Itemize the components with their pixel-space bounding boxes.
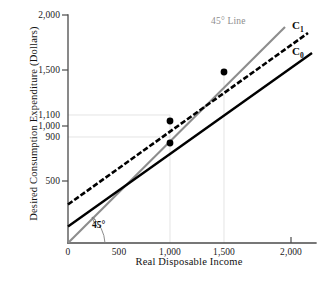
series-label-c1: C1 bbox=[292, 19, 304, 34]
legend-label-45-line: 45° Line bbox=[211, 16, 246, 26]
x-axis-title: Real Disposable Income bbox=[68, 256, 310, 267]
data-point-1000-900 bbox=[167, 140, 174, 147]
data-point-1000-1100 bbox=[167, 118, 174, 125]
axis-lines bbox=[68, 15, 316, 243]
y-tick-label-1100: 1,100 bbox=[12, 110, 60, 120]
series-label-c1-sub: 1 bbox=[300, 25, 304, 34]
series-label-c1-main: C bbox=[292, 19, 300, 31]
annotation-45-degree: 45° bbox=[92, 220, 105, 230]
data-point-1500-1500 bbox=[221, 69, 228, 76]
series-label-c0: C0 bbox=[292, 45, 304, 60]
series-label-c0-sub: 0 bbox=[300, 51, 304, 60]
chart-figure: Desired Consumption Expenditure (Dollars… bbox=[0, 0, 330, 290]
line-45-degree bbox=[68, 27, 285, 243]
x-tick-label-500: 500 bbox=[103, 247, 135, 257]
series-label-c0-main: C bbox=[292, 45, 300, 57]
x-tick-label-0: 0 bbox=[52, 247, 84, 257]
y-tick-label-1500: 1,500 bbox=[12, 65, 60, 75]
x-tick-label-1500: 1,500 bbox=[208, 247, 240, 257]
y-tick-label-900: 900 bbox=[12, 132, 60, 142]
y-tick-label-1000: 1,000 bbox=[12, 121, 60, 131]
y-tick-label-500: 500 bbox=[12, 176, 60, 186]
curve-c0 bbox=[68, 53, 312, 227]
guide-lines bbox=[68, 72, 224, 243]
curve-c1 bbox=[68, 33, 308, 205]
y-axis-ticks bbox=[62, 15, 68, 181]
y-tick-label-2000: 2,000 bbox=[12, 10, 60, 20]
x-tick-label-1000: 1,000 bbox=[154, 247, 186, 257]
x-tick-label-2000: 2,000 bbox=[275, 247, 307, 257]
